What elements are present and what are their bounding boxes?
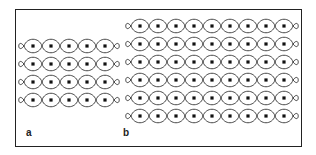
grid-dot [282,42,285,45]
grid-dot [282,114,285,117]
grid-dot [67,62,70,65]
grid-dot [246,78,249,81]
grid-dot [228,42,231,45]
grid-dot [156,60,159,63]
grid-dot [85,98,88,101]
grid-dot [103,62,106,65]
grid-dot [138,114,141,117]
grid-dot [246,96,249,99]
grid-dot [264,42,267,45]
loop-curves [19,39,120,107]
grid-dot [31,44,34,47]
grid-dot [246,24,249,27]
grid-dot [192,114,195,117]
grid-dot [49,62,52,65]
grid-dot [49,44,52,47]
grid-dot [228,24,231,27]
grid-dot [85,80,88,83]
grid-dot [156,114,159,117]
grid-dot [192,60,195,63]
loop-curves [126,19,299,123]
grid-dot [192,24,195,27]
grid-dot [31,80,34,83]
grid-dot [67,44,70,47]
grid-dot [156,24,159,27]
grid-dot [67,98,70,101]
grid-dot [228,114,231,117]
grid-dot [264,96,267,99]
panel-b-label: b [123,127,129,138]
panel-a-label: a [26,127,32,138]
grid-dot [174,42,177,45]
grid-dot [282,96,285,99]
grid-dot [103,98,106,101]
grid-dot [85,44,88,47]
grid-dot [246,114,249,117]
panel-b-pattern [126,19,299,123]
grid-dot [210,24,213,27]
grid-dot [228,96,231,99]
panel-a-pattern [19,39,120,107]
grid-dot [264,24,267,27]
grid-dot [156,42,159,45]
grid-dot [192,42,195,45]
grid-dot [103,44,106,47]
grid-dot [246,60,249,63]
grid-dot [210,96,213,99]
grid-dot [138,24,141,27]
grid-dot [210,42,213,45]
grid-dot [282,24,285,27]
grid-dot [174,114,177,117]
grid-dot [156,96,159,99]
grid-dot [192,96,195,99]
grid-dot [246,42,249,45]
grid-dot [264,114,267,117]
grid-dot [210,114,213,117]
grid-dot [138,60,141,63]
kolam-diagram [0,0,316,155]
grid-dot [174,96,177,99]
grid-dot [156,78,159,81]
grid-dot [85,62,88,65]
grid-dot [264,60,267,63]
grid-dot [138,42,141,45]
grid-dot [174,24,177,27]
grid-dot [31,62,34,65]
grid-dot [282,60,285,63]
grid-dot [174,60,177,63]
grid-dot [192,78,195,81]
grid-dot [138,78,141,81]
grid-dot [138,96,141,99]
grid-dot [228,78,231,81]
grid-dot [282,78,285,81]
grid-dot [31,98,34,101]
grid-dot [49,98,52,101]
grid-dot [67,80,70,83]
grid-dot [264,78,267,81]
grid-dot [103,80,106,83]
grid-dot [49,80,52,83]
grid-dot [210,78,213,81]
grid-dot [210,60,213,63]
grid-dot [174,78,177,81]
grid-dot [228,60,231,63]
